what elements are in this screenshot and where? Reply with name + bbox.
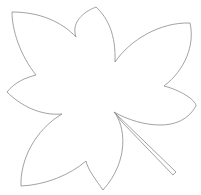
- leaf-outline: [7, 7, 196, 190]
- leaf-outline-svg: [0, 0, 201, 195]
